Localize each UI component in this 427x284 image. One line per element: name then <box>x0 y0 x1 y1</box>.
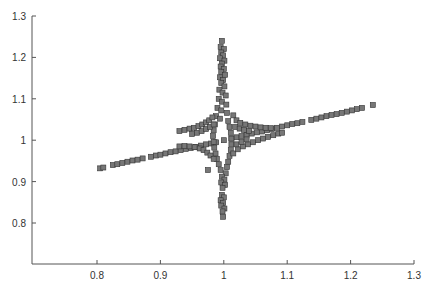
x-tick-label: 0.8 <box>90 270 104 281</box>
scatter-point <box>217 116 222 121</box>
scatter-point <box>285 123 290 128</box>
scatter-point <box>339 110 344 115</box>
scatter-point <box>213 151 218 156</box>
scatter-chart: 0.80.911.11.21.3 0.80.911.11.21.3 <box>0 0 427 284</box>
scatter-point <box>244 137 249 142</box>
scatter-point <box>101 165 106 170</box>
scatter-point <box>329 112 334 117</box>
scatter-point <box>295 121 300 126</box>
scatter-point <box>354 107 359 112</box>
scatter-point <box>211 134 216 139</box>
x-ticks: 0.80.911.11.21.3 <box>90 260 421 281</box>
scatter-point <box>344 109 349 114</box>
scatter-point <box>224 110 229 115</box>
scatter-point <box>223 93 228 98</box>
scatter-point <box>177 144 182 149</box>
scatter-point <box>211 156 216 161</box>
scatter-point <box>163 151 168 156</box>
scatter-point <box>261 136 266 141</box>
scatter-point <box>247 129 252 134</box>
scatter-point <box>211 122 216 127</box>
scatter-point <box>224 102 229 107</box>
scatter-point <box>240 144 245 149</box>
scatter-point <box>239 134 244 139</box>
y-tick-label: 0.9 <box>12 177 26 188</box>
scatter-point <box>314 116 319 121</box>
scatter-point <box>182 127 187 132</box>
scatter-point <box>271 133 276 138</box>
scatter-point <box>238 120 243 125</box>
y-tick-label: 1.3 <box>12 11 26 22</box>
scatter-point <box>212 145 217 150</box>
scatter-point <box>243 122 248 127</box>
scatter-point <box>275 125 280 130</box>
scatter-point <box>229 142 234 147</box>
scatter-point <box>226 119 231 124</box>
data-points <box>98 38 376 219</box>
scatter-point <box>187 144 192 149</box>
scatter-point <box>245 142 250 147</box>
scatter-point <box>173 149 178 154</box>
scatter-point <box>182 143 187 148</box>
scatter-point <box>235 147 240 152</box>
scatter-point <box>177 129 182 134</box>
scatter-point <box>192 145 197 150</box>
scatter-point <box>190 131 195 136</box>
scatter-point <box>250 140 255 145</box>
scatter-point <box>219 108 224 113</box>
scatter-point <box>280 124 285 129</box>
x-tick-label: 1.1 <box>280 270 294 281</box>
scatter-point <box>242 127 247 132</box>
x-tick-label: 1 <box>221 270 227 281</box>
scatter-point <box>266 134 271 139</box>
y-tick-label: 0.8 <box>12 218 26 229</box>
scatter-point <box>300 119 305 124</box>
scatter-point <box>125 159 130 164</box>
scatter-point <box>221 214 226 219</box>
scatter-point <box>370 103 375 108</box>
scatter-point <box>231 113 236 118</box>
x-tick-label: 0.9 <box>153 270 167 281</box>
scatter-point <box>211 139 216 144</box>
scatter-point <box>229 136 234 141</box>
scatter-point <box>226 159 231 164</box>
scatter-point <box>130 158 135 163</box>
scatter-point <box>253 124 258 129</box>
scatter-point <box>221 138 226 143</box>
scatter-point <box>224 165 229 170</box>
scatter-point <box>228 130 233 135</box>
scatter-point <box>220 209 225 214</box>
scatter-point <box>268 126 273 131</box>
scatter-point <box>263 125 268 130</box>
scatter-point <box>218 168 223 173</box>
scatter-point <box>216 162 221 167</box>
y-tick-label: 1.2 <box>12 52 26 63</box>
scatter-point <box>115 162 120 167</box>
scatter-point <box>148 154 153 159</box>
scatter-point <box>248 123 253 128</box>
scatter-point <box>168 150 173 155</box>
scatter-point <box>239 139 244 144</box>
scatter-point <box>360 105 365 110</box>
scatter-point <box>256 138 261 143</box>
scatter-point <box>135 157 140 162</box>
scatter-point <box>120 160 125 165</box>
scatter-point <box>204 142 209 147</box>
scatter-point <box>210 115 215 120</box>
scatter-point <box>219 38 224 43</box>
scatter-point <box>254 130 259 135</box>
scatter-point <box>324 114 329 119</box>
scatter-point <box>290 122 295 127</box>
scatter-point <box>223 72 228 77</box>
scatter-point <box>280 130 285 135</box>
scatter-point <box>309 117 314 122</box>
scatter-point <box>234 135 239 140</box>
scatter-point <box>334 112 339 117</box>
scatter-point <box>319 115 324 120</box>
scatter-point <box>158 152 163 157</box>
x-tick-label: 1.3 <box>407 270 421 281</box>
scatter-point <box>227 124 232 129</box>
scatter-point <box>220 185 225 190</box>
scatter-point <box>349 108 354 113</box>
scatter-point <box>140 156 145 161</box>
